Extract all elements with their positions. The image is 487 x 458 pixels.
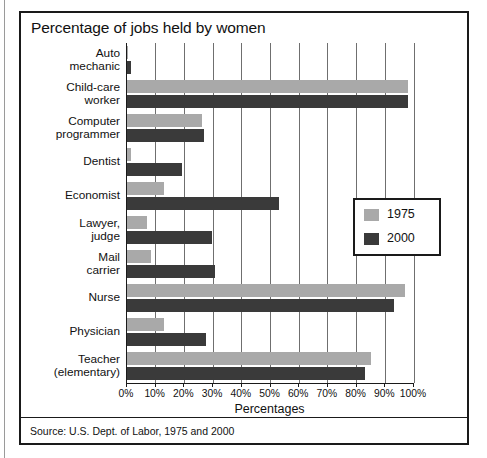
bar-2000-economist [127, 197, 279, 210]
x-axis-title: Percentages [126, 402, 413, 416]
x-tick-label: 20% [173, 388, 194, 399]
bar-2000-child-care-worker [127, 95, 408, 108]
x-tick-label: 80% [345, 388, 366, 399]
category-label-child-care-worker: Child-care worker [66, 81, 120, 108]
x-tick-label: 40% [230, 388, 251, 399]
bar-1975-physician [127, 318, 164, 331]
x-tick-mark [298, 383, 299, 387]
gridline [155, 43, 156, 383]
category-label-economist: Economist [65, 189, 120, 203]
x-tick-mark [327, 383, 328, 387]
gridline [327, 43, 328, 383]
bar-1975-teacher-elementary [127, 352, 371, 365]
legend-swatch-1975 [364, 209, 379, 221]
category-label-auto-mechanic: Auto mechanic [70, 47, 121, 74]
category-label-dentist: Dentist [83, 155, 120, 169]
gridline [184, 43, 185, 383]
legend-label-1975: 1975 [387, 207, 415, 221]
source-divider [21, 417, 467, 418]
legend-swatch-2000 [364, 233, 379, 245]
gridline [241, 43, 242, 383]
x-tick-mark [241, 383, 242, 387]
gridline [213, 43, 214, 383]
bar-2000-mail-carrier [127, 265, 215, 278]
category-label-teacher-elementary: Teacher (elementary) [54, 353, 120, 380]
x-tick-mark [126, 383, 127, 387]
x-tick-label: 0% [119, 388, 134, 399]
bar-1975-economist [127, 182, 164, 195]
chart-figure-frame: Percentage of jobs held by women Auto me… [19, 11, 469, 445]
bar-2000-nurse [127, 299, 394, 312]
x-tick-mark [270, 383, 271, 387]
x-tick-label: 90% [374, 388, 395, 399]
gridline [270, 43, 271, 383]
bar-2000-computer-programmer [127, 129, 204, 142]
x-tick-mark [413, 383, 414, 387]
bar-1975-nurse [127, 284, 405, 297]
x-tick-label: 60% [288, 388, 309, 399]
gridline [299, 43, 300, 383]
x-tick-label: 70% [317, 388, 338, 399]
x-tick-label: 50% [259, 388, 280, 399]
page-edge-rule [4, 0, 5, 458]
x-tick-mark [384, 383, 385, 387]
x-tick-mark [183, 383, 184, 387]
bar-2000-dentist [127, 163, 182, 176]
category-axis-labels: Auto mechanicChild-care workerComputer p… [21, 43, 125, 383]
source-note: Source: U.S. Dept. of Labor, 1975 and 20… [30, 425, 234, 437]
bar-2000-physician [127, 333, 206, 346]
x-tick-label: 10% [144, 388, 165, 399]
category-label-mail-carrier: Mail carrier [87, 251, 120, 278]
category-label-lawyer-judge: Lawyer, judge [79, 217, 120, 244]
bar-1975-mail-carrier [127, 250, 151, 263]
figure-page: Percentage of jobs held by women Auto me… [0, 0, 487, 458]
chart-legend: 1975 2000 [353, 198, 441, 256]
bar-1975-auto-mechanic [127, 46, 128, 59]
bar-1975-computer-programmer [127, 114, 202, 127]
category-label-physician: Physician [70, 325, 121, 339]
plot-wrapper: Auto mechanicChild-care workerComputer p… [21, 43, 467, 418]
x-tick-mark [212, 383, 213, 387]
bar-2000-auto-mechanic [127, 61, 131, 74]
bar-1975-lawyer-judge [127, 216, 147, 229]
chart-title: Percentage of jobs held by women [31, 19, 266, 37]
x-tick-label: 100% [400, 388, 426, 399]
x-tick-mark [356, 383, 357, 387]
legend-label-2000: 2000 [387, 231, 415, 245]
x-tick-label: 30% [202, 388, 223, 399]
bar-2000-lawyer-judge [127, 231, 212, 244]
bar-1975-dentist [127, 148, 131, 161]
bar-1975-child-care-worker [127, 80, 408, 93]
bar-2000-teacher-elementary [127, 367, 365, 380]
category-label-nurse: Nurse [89, 291, 120, 305]
category-label-computer-programmer: Computer programmer [56, 115, 120, 142]
x-tick-mark [155, 383, 156, 387]
